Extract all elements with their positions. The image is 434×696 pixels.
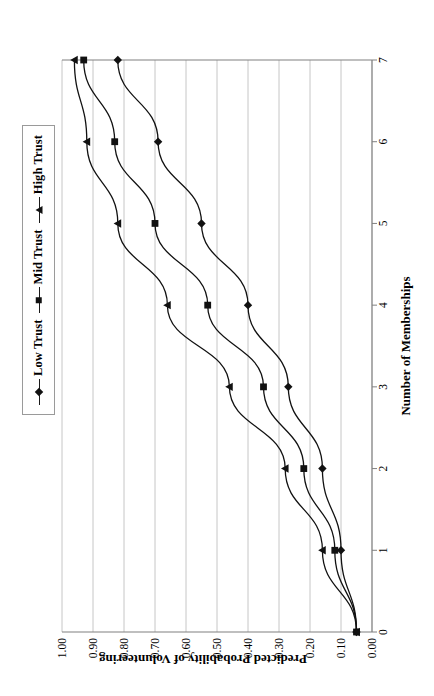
series-line (74, 60, 356, 632)
plot-svg (62, 60, 372, 632)
chart-legend: Low Trust Mid Trust High Trust (22, 125, 55, 415)
legend-entry-mid-trust[interactable]: Mid Trust (31, 229, 46, 313)
series-mid-trust[interactable] (80, 57, 360, 636)
chart-frame: Low Trust Mid Trust High Trust (0, 0, 434, 696)
legend-entry-low-trust[interactable]: Low Trust (31, 320, 46, 405)
data-point-marker[interactable] (152, 220, 159, 227)
square-marker-icon (35, 297, 42, 304)
triangle-marker-icon (35, 206, 42, 214)
legend-entry-high-trust[interactable]: High Trust (31, 135, 46, 223)
x-tick-label: 0 (377, 629, 389, 635)
legend-label-mid-trust: Mid Trust (31, 229, 46, 284)
x-axis-title: Number of Memberships (398, 60, 414, 632)
x-tick-label: 2 (377, 466, 389, 472)
y-tick-label: 0.00 (366, 638, 378, 658)
legend-line-sample-low-trust (34, 379, 44, 405)
x-tick-label: 6 (377, 139, 389, 145)
legend-label-high-trust: High Trust (31, 135, 46, 194)
data-point-marker[interactable] (111, 138, 118, 145)
data-point-marker[interactable] (114, 56, 122, 64)
legend-line-sample-high-trust (34, 197, 44, 223)
x-tick-label: 3 (377, 384, 389, 390)
chart-page: Low Trust Mid Trust High Trust (0, 0, 434, 696)
diamond-marker-icon (34, 388, 42, 396)
x-axis-tick-labels: 01234567 (374, 60, 394, 632)
data-point-marker[interactable] (300, 465, 307, 472)
legend-label-low-trust: Low Trust (31, 320, 46, 376)
data-point-marker[interactable] (260, 383, 267, 390)
data-point-marker[interactable] (80, 57, 87, 64)
x-tick-label: 7 (377, 57, 389, 63)
rotated-chart-canvas: Low Trust Mid Trust High Trust (0, 0, 434, 696)
data-point-marker[interactable] (284, 383, 292, 391)
plot-area (62, 60, 372, 632)
series-line (84, 60, 357, 632)
series-line (118, 60, 357, 632)
data-point-marker[interactable] (331, 547, 338, 554)
data-point-marker[interactable] (244, 301, 252, 309)
y-axis-title: Predicted Probability of Volunteering (48, 651, 358, 667)
data-point-marker[interactable] (197, 219, 205, 227)
legend-line-sample-mid-trust (34, 287, 44, 313)
x-tick-label: 1 (377, 547, 389, 553)
x-tick-label: 4 (377, 302, 389, 308)
data-point-marker[interactable] (204, 302, 211, 309)
x-tick-label: 5 (377, 221, 389, 227)
data-point-marker[interactable] (318, 464, 326, 472)
